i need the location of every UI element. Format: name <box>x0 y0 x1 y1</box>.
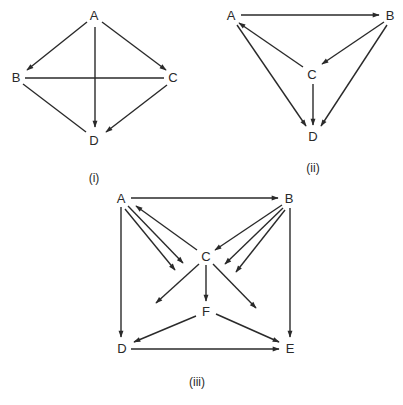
node-ii-c: C <box>307 67 316 82</box>
caption-iii: (iii) <box>189 375 205 389</box>
node-i-b: B <box>12 70 21 85</box>
node-i-d: D <box>89 133 98 148</box>
edge-i-b-d <box>23 84 86 132</box>
edge-ii-a-d <box>237 25 306 126</box>
edge-iii-c-a <box>136 206 197 250</box>
node-iii-e: E <box>286 341 295 356</box>
node-iii-f: F <box>202 304 210 319</box>
caption-ii: (ii) <box>306 161 319 175</box>
diagram-iii: A B C F D E (iii) <box>117 191 295 389</box>
node-iii-b: B <box>285 191 294 206</box>
node-ii-a: A <box>227 8 236 23</box>
edge-i-a-b <box>27 22 87 70</box>
diagram-ii: A B C D (ii) <box>227 8 395 175</box>
node-iii-c: C <box>201 249 210 264</box>
caption-i: (i) <box>89 171 100 185</box>
node-i-c: C <box>168 70 177 85</box>
diagram-canvas: A B C D (i) A B C D (ii) <box>0 0 403 405</box>
node-iii-a: A <box>117 191 126 206</box>
node-ii-b: B <box>386 8 395 23</box>
edge-iii-c-open-e <box>213 264 256 308</box>
edge-i-c-d <box>106 85 167 132</box>
diagram-i: A B C D (i) <box>12 8 178 185</box>
edge-iii-f-d <box>134 316 196 342</box>
edge-ii-c-a <box>239 23 303 67</box>
node-ii-d: D <box>308 129 317 144</box>
edge-iii-c-open-d <box>156 264 199 303</box>
edge-ii-b-d <box>321 25 387 126</box>
edge-iii-f-e <box>216 314 279 342</box>
edge-i-a-c <box>102 22 166 70</box>
edge-iii-b-open-1 <box>225 208 283 264</box>
node-iii-d: D <box>117 341 126 356</box>
edge-iii-a-open-2 <box>125 209 175 270</box>
node-i-a: A <box>90 8 99 23</box>
